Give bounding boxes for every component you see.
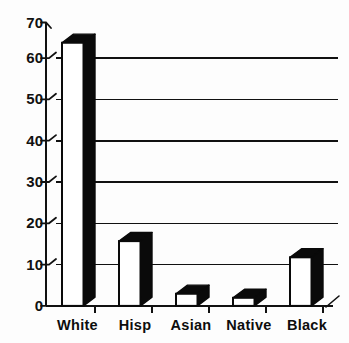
chart-canvas <box>0 0 349 343</box>
ytick-label-0: 0 <box>35 298 43 313</box>
bar-hisp <box>119 233 152 306</box>
ytick-50 <box>41 94 56 100</box>
xtick-label-black: Black <box>270 318 344 333</box>
ytick-label-70: 70 <box>26 15 43 30</box>
ytick-label-10: 10 <box>26 257 43 272</box>
bar-white-side <box>84 34 96 306</box>
ytick-60 <box>41 53 56 59</box>
ytick-20 <box>41 218 56 224</box>
plot-area: 70 60 50 40 30 20 10 0 White Hisp Asian … <box>0 0 349 343</box>
bar-asian-front <box>176 294 198 306</box>
bar-hisp-side <box>141 233 153 306</box>
bar-native <box>233 289 266 306</box>
bar-asian <box>176 285 209 306</box>
y-axis-ticks <box>41 23 56 306</box>
ytick-label-60: 60 <box>26 50 43 65</box>
ytick-label-40: 40 <box>26 133 43 148</box>
bar-black-front <box>290 257 312 306</box>
bar-native-front <box>233 298 255 306</box>
bar-white-front <box>62 43 84 306</box>
ytick-label-50: 50 <box>26 91 43 106</box>
ytick-label-30: 30 <box>26 174 43 189</box>
ytick-10 <box>41 259 56 265</box>
ytick-label-20: 20 <box>26 215 43 230</box>
gridlines <box>56 58 338 265</box>
bar-black-side <box>312 249 324 306</box>
ytick-40 <box>41 135 56 141</box>
bar-chart: 70 60 50 40 30 20 10 0 White Hisp Asian … <box>0 0 349 343</box>
bar-black <box>290 249 323 306</box>
ytick-30 <box>41 176 56 182</box>
bar-hisp-front <box>119 241 141 306</box>
bar-white <box>62 34 95 306</box>
